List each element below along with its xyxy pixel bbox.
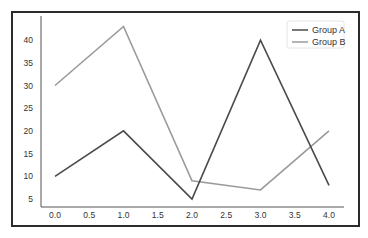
legend-label-group-b: Group B (312, 37, 346, 47)
legend: Group A Group B (287, 21, 346, 48)
x-tick-label: 0.5 (83, 210, 95, 220)
x-tick-label: 3.5 (289, 210, 301, 220)
x-tick-label: 4.0 (323, 210, 335, 220)
y-tick-label: 30 (24, 81, 34, 91)
y-tick-label: 20 (24, 126, 34, 136)
x-tick-label: 1.5 (152, 210, 164, 220)
x-tick-label: 3.0 (255, 210, 267, 220)
y-tick-label: 35 (24, 58, 34, 68)
series-line-group-a (55, 40, 329, 199)
y-tick-label: 15 (24, 149, 34, 159)
y-tick-label: 10 (24, 171, 34, 181)
y-tick-labels: 510152025303540 (24, 35, 34, 204)
y-tick-label: 25 (24, 103, 34, 113)
x-tick-label: 2.5 (220, 210, 232, 220)
x-tick-label: 2.0 (186, 210, 198, 220)
y-tick-label: 40 (24, 35, 34, 45)
series-line-group-b (55, 26, 329, 189)
legend-label-group-a: Group A (312, 25, 345, 35)
x-tick-label: 1.0 (118, 210, 130, 220)
x-tick-labels: 0.00.51.01.52.02.53.03.54.0 (49, 210, 335, 220)
y-tick-label: 5 (28, 194, 33, 204)
x-tick-label: 0.0 (49, 210, 61, 220)
series-lines (55, 26, 329, 199)
line-chart: 510152025303540 0.00.51.01.52.02.53.03.5… (0, 0, 368, 238)
